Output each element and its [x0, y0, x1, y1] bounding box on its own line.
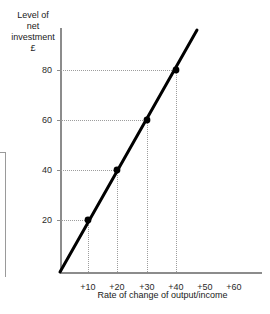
plot-area — [0, 0, 270, 314]
data-point-30-60 — [144, 117, 151, 124]
data-point-20-40 — [114, 167, 121, 174]
x-axis-title: Rate of change of output/income — [60, 290, 265, 300]
investment-line — [60, 30, 197, 272]
investment-accelerator-chart: Level of net investment £ 20 40 60 80 +1… — [0, 0, 270, 314]
data-point-40-80 — [173, 67, 180, 74]
data-point-10-20 — [85, 217, 92, 224]
